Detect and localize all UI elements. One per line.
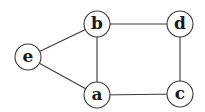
node-label: e xyxy=(23,46,34,66)
node-label: c xyxy=(175,83,185,103)
node-label: a xyxy=(91,84,102,104)
node-label: d xyxy=(174,13,186,33)
nodes-group: ebdac xyxy=(15,11,193,108)
node-d: d xyxy=(167,11,193,37)
node-label: b xyxy=(91,13,103,33)
node-e: e xyxy=(15,44,41,70)
node-b: b xyxy=(84,11,110,37)
node-c: c xyxy=(167,81,193,107)
node-a: a xyxy=(84,82,110,108)
graph-diagram: ebdac xyxy=(0,0,205,112)
